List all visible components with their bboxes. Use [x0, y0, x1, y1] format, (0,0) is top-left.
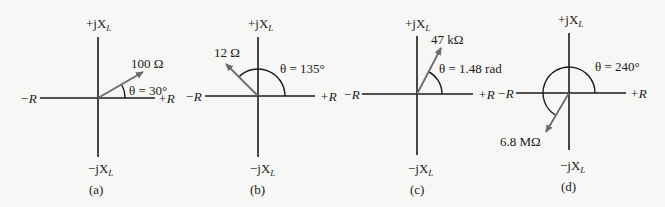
pos-real-label: +R — [478, 88, 495, 101]
caption-a: (a) — [89, 183, 103, 196]
angle-arc — [239, 69, 285, 96]
neg-imag-label: −jXL — [250, 162, 275, 178]
caption-b: (b) — [250, 183, 265, 196]
angle-arc — [121, 85, 125, 99]
magnitude-label: 100 Ω — [131, 57, 163, 70]
angle-label: θ = 240° — [595, 60, 640, 73]
neg-real-label: −R — [343, 88, 360, 101]
panel-c — [362, 36, 473, 155]
phasor-arrow — [546, 93, 569, 132]
pos-imag-label: +jXL — [86, 17, 111, 33]
neg-real-label: −R — [185, 90, 202, 103]
magnitude-label: 6.8 MΩ — [500, 135, 541, 148]
pos-imag-label: +jXL — [558, 13, 583, 29]
magnitude-label: 47 kΩ — [431, 33, 463, 46]
angle-label: θ = 30° — [129, 84, 167, 97]
caption-c: (c) — [410, 183, 424, 196]
neg-imag-label: −jXL — [560, 159, 585, 175]
angle-label: θ = 1.48 rad — [439, 62, 502, 75]
neg-imag-label: −jXL — [88, 162, 113, 178]
pos-real-label: +R — [320, 90, 337, 103]
pos-imag-label: +jXL — [405, 17, 430, 33]
magnitude-label: 12 Ω — [214, 46, 240, 59]
phasor-arrow — [417, 48, 441, 94]
panel-d — [516, 33, 626, 150]
neg-imag-label: −jXL — [408, 162, 433, 178]
caption-d: (d) — [561, 180, 576, 193]
pos-imag-label: +jXL — [248, 17, 273, 33]
neg-real-label: −R — [20, 92, 37, 105]
pos-real-label: +R — [630, 87, 647, 100]
angle-label: θ = 135° — [280, 62, 325, 75]
neg-real-label: −R — [497, 87, 514, 100]
